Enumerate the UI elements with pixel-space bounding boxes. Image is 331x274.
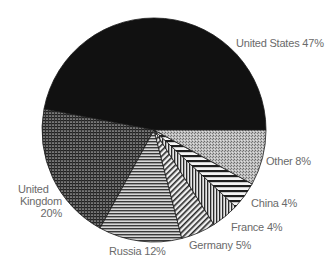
label-russia: Russia 12% (109, 245, 166, 257)
label-united-kingdom-line2: Kingdom (8, 195, 62, 207)
pie-slices (42, 18, 266, 242)
label-united-kingdom-line3: 20% (38, 207, 62, 219)
label-china: China 4% (251, 197, 297, 209)
label-germany: Germany 5% (189, 239, 251, 251)
pie-slice-united-states (44, 18, 266, 130)
label-france: France 4% (231, 221, 282, 233)
label-united-states: United States 47% (236, 37, 324, 49)
label-other: Other 8% (266, 155, 311, 167)
label-united-kingdom-line1: United (18, 183, 47, 195)
